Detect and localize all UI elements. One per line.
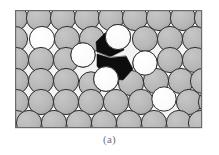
- white-sphere-highlight: [152, 87, 176, 111]
- white-sphere-highlight: [94, 67, 119, 92]
- white-sphere-highlight: [71, 43, 95, 67]
- figure-container: (a): [0, 0, 219, 155]
- figure-caption: (a): [0, 132, 219, 146]
- sphere-row-5: [3, 87, 219, 115]
- sphere-lattice: [2, 5, 219, 135]
- grey-sphere: [190, 68, 215, 93]
- white-sphere-highlight: [105, 24, 130, 49]
- grey-sphere: [132, 26, 157, 51]
- grey-sphere: [182, 47, 207, 72]
- white-sphere-highlight: [133, 51, 157, 75]
